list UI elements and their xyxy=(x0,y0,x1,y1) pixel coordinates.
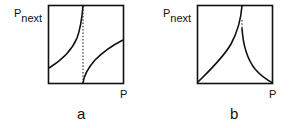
panel-caption: a xyxy=(77,106,85,121)
x-axis-label: P xyxy=(269,89,276,100)
panel-b: Pnext P b xyxy=(145,0,290,128)
left-branch-curve xyxy=(198,6,242,82)
panel-a: Pnext P a xyxy=(0,0,145,128)
x-axis-label: P xyxy=(120,89,127,100)
return-map-b xyxy=(145,0,291,128)
right-branch-curve xyxy=(83,40,123,83)
left-branch-curve xyxy=(49,6,83,68)
panel-caption: b xyxy=(230,106,238,121)
right-branch-curve xyxy=(242,28,273,83)
return-map-a xyxy=(0,0,145,128)
